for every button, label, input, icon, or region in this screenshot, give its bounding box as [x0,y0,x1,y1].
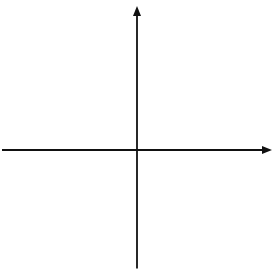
coordinate-plane [0,0,280,277]
coordinate-grid-screenshot [0,0,280,277]
plot-background [0,0,280,277]
